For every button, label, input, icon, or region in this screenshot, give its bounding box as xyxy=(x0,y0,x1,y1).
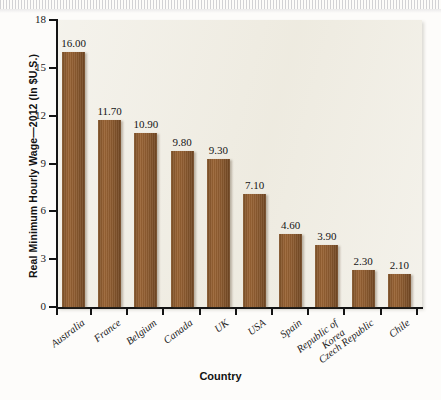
y-tick-mark xyxy=(49,306,57,308)
x-tick-mark xyxy=(235,309,237,315)
scan-artifact-gradient xyxy=(0,9,441,13)
bar xyxy=(98,120,121,307)
y-tick-mark xyxy=(49,115,57,117)
x-tick-mark xyxy=(380,309,382,315)
bar-chart-figure: 0369121518 16.0011.7010.909.809.307.104.… xyxy=(0,0,441,400)
bar xyxy=(279,234,302,307)
x-tick-mark xyxy=(343,309,345,315)
x-axis-line xyxy=(56,307,423,309)
bar-value-label: 16.00 xyxy=(51,37,97,49)
x-tick-mark xyxy=(416,309,418,315)
bar xyxy=(171,151,194,307)
bar-value-label: 3.90 xyxy=(304,230,350,242)
bar xyxy=(315,245,338,307)
bar xyxy=(207,159,230,307)
bar-value-label: 2.10 xyxy=(376,259,422,271)
bar xyxy=(62,52,85,307)
x-tick-mark xyxy=(199,309,201,315)
scan-artifact-strip xyxy=(0,0,441,9)
y-tick-label: 18 xyxy=(20,13,46,25)
bar xyxy=(134,133,157,307)
bar-value-label: 7.10 xyxy=(232,179,278,191)
bar xyxy=(352,270,375,307)
y-tick-mark xyxy=(49,19,57,21)
y-axis-title: Real Minimum Hourly Wage—2012 (In $U.S.) xyxy=(27,41,39,291)
y-tick-mark xyxy=(49,258,57,260)
x-tick-mark xyxy=(162,309,164,315)
bar-value-label: 10.90 xyxy=(123,118,169,130)
y-tick-mark xyxy=(49,67,57,69)
x-axis-title: Country xyxy=(0,370,441,382)
x-tick-mark xyxy=(126,309,128,315)
bar xyxy=(388,274,411,307)
x-tick-mark xyxy=(271,309,273,315)
y-tick-mark xyxy=(49,210,57,212)
x-tick-mark xyxy=(90,309,92,315)
bar xyxy=(243,194,266,307)
x-tick-mark xyxy=(56,309,58,315)
bar-value-label: 9.30 xyxy=(195,144,241,156)
bar-value-label: 11.70 xyxy=(87,105,133,117)
y-tick-mark xyxy=(49,163,57,165)
x-tick-mark xyxy=(307,309,309,315)
y-tick-label: 0 xyxy=(20,300,46,312)
